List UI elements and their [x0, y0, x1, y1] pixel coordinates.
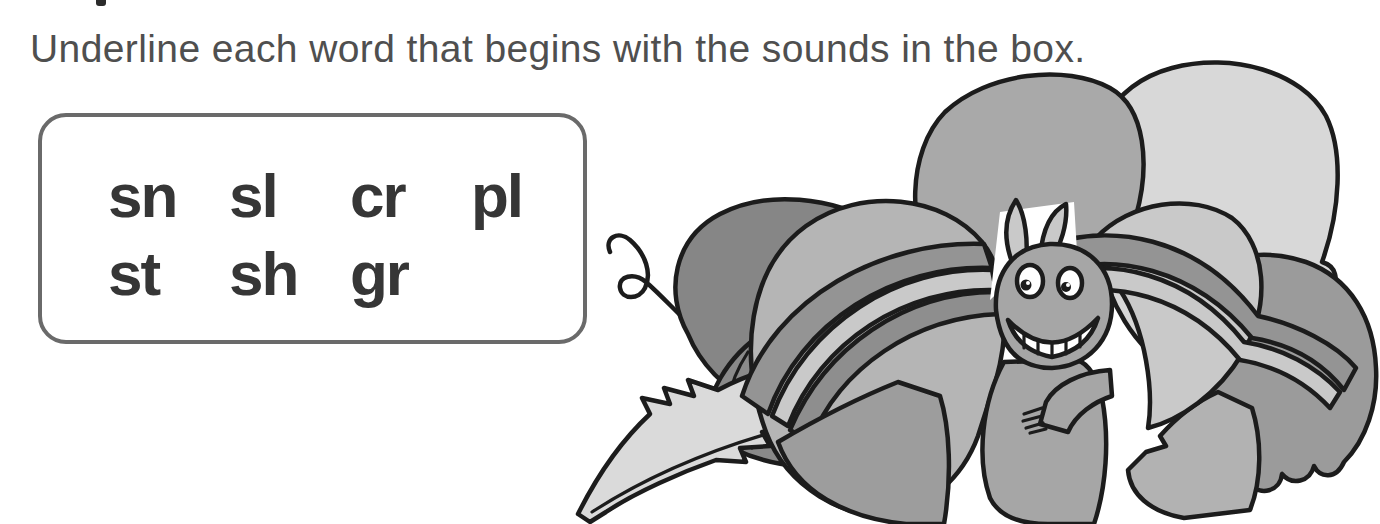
worksheet-instruction: Underline each word that begins with the… — [30, 26, 1086, 72]
sound-item: sn — [108, 161, 229, 231]
sound-item: pl — [471, 161, 592, 231]
sound-item: gr — [350, 239, 471, 309]
caterpillar-eye-right — [1058, 268, 1082, 298]
caterpillar-pupil-left — [1021, 280, 1032, 291]
sound-item: st — [108, 239, 229, 309]
sounds-box: sn sl cr pl st sh gr — [38, 113, 587, 344]
sound-item: sl — [229, 161, 350, 231]
caterpillar-eye-left — [1017, 265, 1043, 297]
sound-item: sh — [229, 239, 350, 309]
pupil-glint-right — [1066, 283, 1070, 287]
caterpillar-pupil-right — [1061, 282, 1071, 292]
sound-item: cr — [350, 161, 471, 231]
sounds-grid: sn sl cr pl st sh gr — [108, 161, 592, 309]
pupil-glint-left — [1026, 281, 1030, 285]
